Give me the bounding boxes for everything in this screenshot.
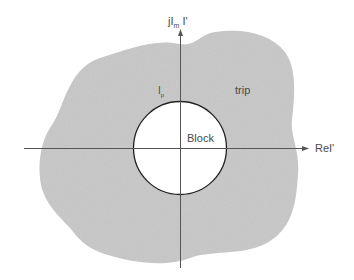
relay-characteristic-diagram: jIm I' ReI' Ip trip Block	[0, 0, 354, 280]
real-axis-arrow-icon	[302, 146, 309, 151]
block-region-label: Block	[187, 132, 214, 144]
trip-region-label: trip	[235, 84, 250, 96]
imaginary-axis-arrow-icon	[178, 29, 183, 36]
real-axis-label: ReI'	[315, 142, 334, 154]
imaginary-axis-label: jIm I'	[167, 15, 188, 29]
